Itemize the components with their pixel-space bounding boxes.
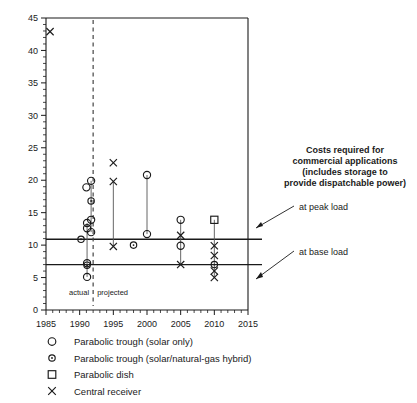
annotation-line-3: (includes storage to: [302, 167, 388, 177]
x-axis-ticks: [46, 310, 248, 315]
legend-label: Parabolic dish: [74, 369, 134, 380]
legend-label: Parabolic trough (solar/natural-gas hybr…: [74, 353, 251, 364]
annotation-line-4: provide dispatchable power): [284, 178, 406, 188]
y-tick-label: 30: [28, 111, 38, 121]
legend-marker-open-circle: [48, 338, 56, 346]
y-tick-label: 20: [28, 175, 38, 185]
x-tick-label: 2010: [204, 319, 224, 329]
series-group: [78, 198, 218, 269]
era-label-actual: actual: [69, 288, 89, 297]
x-tick-label: 2005: [171, 319, 191, 329]
cost-scatter-chart: 051015202530354045 198519901995200020052…: [0, 0, 417, 403]
y-axis-tick-labels: 051015202530354045: [28, 13, 38, 315]
y-tick-label: 45: [28, 13, 38, 23]
y-tick-label: 10: [28, 240, 38, 250]
era-labels: actual projected: [69, 288, 128, 297]
y-tick-label: 15: [28, 208, 38, 218]
data-markers: [46, 28, 217, 281]
x-tick-label: 2000: [137, 319, 157, 329]
x-tick-label: 2015: [238, 319, 258, 329]
data-point: [46, 28, 53, 35]
y-tick-label: 35: [28, 78, 38, 88]
x-tick-label: 1990: [70, 319, 90, 329]
y-tick-label: 0: [33, 305, 38, 315]
x-tick-label: 1995: [103, 319, 123, 329]
x-tick-label: 1985: [36, 319, 56, 329]
legend-marker-dot-circle: [49, 355, 55, 361]
callout-base-load-label: at base load: [299, 247, 348, 257]
data-point: [110, 159, 117, 166]
era-label-projected: projected: [97, 288, 128, 297]
chart-figure: 051015202530354045 198519901995200020052…: [0, 0, 417, 403]
y-tick-label: 5: [33, 273, 38, 283]
callout-peak-load-arrow: [256, 206, 294, 228]
y-axis-ticks: [41, 18, 46, 310]
legend-marker-open-square: [48, 371, 56, 379]
series-connectors: [87, 175, 214, 278]
data-point: [83, 184, 90, 191]
series-group: [46, 28, 217, 281]
y-tick-label: 25: [28, 143, 38, 153]
annotation-line-1: Costs required for: [306, 145, 385, 155]
data-point: [130, 242, 136, 248]
cost-annotation: Costs required for commercial applicatio…: [256, 145, 406, 279]
chart-legend: Parabolic trough (solar only)Parabolic t…: [48, 336, 251, 397]
legend-marker-cross: [48, 387, 56, 395]
legend-label: Parabolic trough (solar only): [74, 336, 193, 347]
x-axis-tick-labels: 1985199019952000200520102015: [36, 319, 258, 329]
annotation-line-2: commercial applications: [292, 156, 397, 166]
legend-label: Central receiver: [74, 386, 141, 397]
y-tick-label: 40: [28, 46, 38, 56]
callout-peak-load-label: at peak load: [299, 202, 348, 212]
reference-lines: [46, 239, 262, 264]
